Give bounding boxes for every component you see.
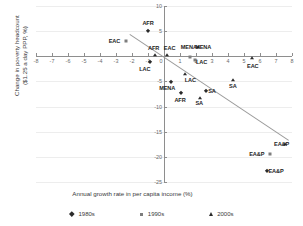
x-tick--2 bbox=[132, 53, 133, 56]
y-tick-label--25: -25 bbox=[148, 179, 162, 185]
x-tick-2 bbox=[196, 53, 197, 56]
x-tick--5 bbox=[84, 53, 85, 56]
data-label-2000s-MENA: MENA bbox=[195, 44, 211, 50]
y-tick-label--20: -20 bbox=[148, 154, 162, 160]
x-tick-3 bbox=[212, 53, 213, 56]
y-tick--10 bbox=[164, 107, 167, 108]
data-label-1980s-EA&P: EA&P bbox=[268, 168, 283, 174]
data-label-2000s-EA&P: EA&P bbox=[274, 141, 289, 147]
data-label-2000s-SA: SA bbox=[195, 100, 203, 106]
y-tick-label--5: -5 bbox=[148, 78, 162, 84]
x-tick-label-1: 1 bbox=[179, 58, 182, 64]
x-tick--4 bbox=[100, 53, 101, 56]
data-label-2000s-EAC: EAC bbox=[164, 45, 176, 51]
data-point-2000s-SA bbox=[198, 96, 202, 99]
x-tick-label--4: -4 bbox=[98, 58, 103, 64]
legend-item-1980s[interactable]: 1980s bbox=[69, 211, 94, 217]
data-label-1980s-LAC: LAC bbox=[139, 66, 150, 72]
legend-item-2000s[interactable]: 2000s bbox=[208, 211, 233, 217]
data-label-2000s-SA: SA bbox=[229, 83, 237, 89]
x-tick-8 bbox=[292, 53, 293, 56]
x-tick-label--5: -5 bbox=[82, 58, 87, 64]
data-point-2000s-EAC bbox=[165, 53, 169, 56]
y-tick--20 bbox=[164, 157, 167, 158]
data-point-2000s-LAC bbox=[183, 72, 187, 75]
y-tick-label-10: 10 bbox=[148, 3, 162, 9]
x-tick--7 bbox=[52, 53, 53, 56]
x-tick-1 bbox=[180, 53, 181, 56]
x-tick-label-5: 5 bbox=[243, 58, 246, 64]
data-label-1990s-LAC: LAC bbox=[196, 59, 207, 65]
data-label-2000s-AFR: AFR bbox=[148, 45, 159, 51]
x-tick--6 bbox=[68, 53, 69, 56]
data-point-1980s-AFR bbox=[179, 91, 184, 96]
x-tick-7 bbox=[276, 53, 277, 56]
data-label-1990s-EAC: EAC bbox=[109, 38, 121, 44]
data-label-1980s-AFR: AFR bbox=[174, 97, 185, 103]
x-tick-label--3: -3 bbox=[114, 58, 119, 64]
y-tick-5 bbox=[164, 31, 167, 32]
legend-label: 1980s bbox=[78, 211, 94, 217]
y-tick--25 bbox=[164, 182, 167, 183]
x-tick--8 bbox=[36, 53, 37, 56]
diamond-marker-icon bbox=[69, 211, 75, 217]
data-point-2000s-SA bbox=[231, 78, 235, 81]
legend-item-1990s[interactable]: 1990s bbox=[139, 211, 164, 217]
data-point-1980s-MENA bbox=[169, 80, 174, 85]
x-tick-label-3: 3 bbox=[211, 58, 214, 64]
x-tick-4 bbox=[228, 53, 229, 56]
data-label-2000s-EAC: EAC bbox=[247, 63, 259, 69]
x-tick--1 bbox=[148, 53, 149, 56]
y-tick-10 bbox=[164, 6, 167, 7]
y-tick-label--15: -15 bbox=[148, 129, 162, 135]
data-point-1990s-EAC bbox=[125, 40, 128, 43]
y-tick--15 bbox=[164, 132, 167, 133]
x-tick-label--6: -6 bbox=[66, 58, 71, 64]
x-tick-label--8: -8 bbox=[34, 58, 39, 64]
x-tick-label--7: -7 bbox=[50, 58, 55, 64]
legend-label: 1990s bbox=[148, 211, 164, 217]
plot-area: -8-7-6-5-4-3-2-1123456780105-5-10-15-20-… bbox=[36, 6, 292, 182]
x-tick-label-4: 4 bbox=[227, 58, 230, 64]
x-tick-label-0: 0 bbox=[160, 58, 163, 64]
data-point-2000s-EAC bbox=[250, 56, 254, 59]
data-label-1980s-SA: SA bbox=[208, 88, 216, 94]
chart-legend: 1980s1990s2000s bbox=[0, 207, 303, 221]
x-tick-5 bbox=[244, 53, 245, 56]
y-tick--5 bbox=[164, 81, 167, 82]
x-tick-6 bbox=[260, 53, 261, 56]
y-tick-label--10: -10 bbox=[148, 104, 162, 110]
square-marker-icon bbox=[139, 211, 145, 217]
x-tick-label-8: 8 bbox=[291, 58, 294, 64]
triangle-marker-icon bbox=[208, 211, 214, 217]
data-point-2000s-AFR bbox=[153, 53, 157, 56]
data-point-1990s-EA&P bbox=[268, 152, 271, 155]
data-label-1990s-EA&P: EA&P bbox=[249, 151, 264, 157]
data-label-2000s-LAC: LAC bbox=[185, 77, 196, 83]
x-tick--3 bbox=[116, 53, 117, 56]
y-axis-title: Change in poverty headcount ($1.25 a day… bbox=[13, 0, 28, 121]
legend-label: 2000s bbox=[217, 211, 233, 217]
y-axis-line bbox=[164, 6, 165, 182]
data-label-1980s-MENA: MENA bbox=[159, 85, 175, 91]
chart-figure: Change in poverty headcount ($1.25 a day… bbox=[0, 0, 303, 226]
data-point-1990s-MENA bbox=[188, 56, 191, 59]
x-axis-title: Annual growth rate in per capita income … bbox=[0, 190, 265, 197]
x-tick-label-7: 7 bbox=[275, 58, 278, 64]
x-tick-label--2: -2 bbox=[130, 58, 135, 64]
data-label-1980s-AFR: AFR bbox=[142, 20, 153, 26]
